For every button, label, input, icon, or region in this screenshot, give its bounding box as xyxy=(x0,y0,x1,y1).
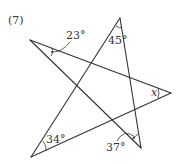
arrowhead-23 xyxy=(51,51,53,53)
leader-23 xyxy=(53,42,70,52)
arrowhead-37 xyxy=(133,137,135,139)
angle-arc-x xyxy=(158,88,159,98)
angle-label-37: 37° xyxy=(106,142,126,153)
angle-label-34: 34° xyxy=(46,134,66,145)
angle-label-x: x xyxy=(151,87,157,98)
angle-label-45: 45° xyxy=(108,35,128,46)
pentagram-figure xyxy=(0,0,182,164)
angle-label-23: 23° xyxy=(66,30,86,41)
problem-number: (7) xyxy=(8,15,24,26)
star-diagram: (7) 23° 45° x 37° 34° xyxy=(0,0,182,164)
